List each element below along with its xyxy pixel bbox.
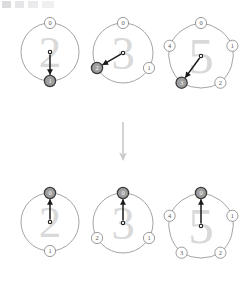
graph-node[interactable]: 2 (91, 62, 102, 73)
node-label: 0 (121, 189, 124, 196)
graph-node[interactable]: 1 (227, 40, 238, 51)
graph-node[interactable]: 3 (176, 77, 187, 88)
graph-node[interactable]: 0 (44, 187, 55, 198)
pointer-hub (199, 224, 202, 227)
diagram-canvas: 20130125012342013012501234 (0, 0, 247, 305)
graph-node[interactable]: 1 (44, 75, 55, 86)
cycle-diagram: 201 (14, 16, 86, 88)
pointer-hub (48, 50, 51, 53)
node-label: 1 (48, 247, 51, 254)
node-label: 2 (95, 64, 98, 71)
graph-node[interactable]: 0 (195, 17, 206, 28)
graph-node[interactable]: 0 (195, 187, 206, 198)
node-label: 0 (199, 189, 202, 196)
node-label: 1 (231, 212, 234, 219)
node-label: 2 (95, 234, 98, 241)
node-label: 0 (199, 19, 202, 26)
node-label: 3 (180, 79, 183, 86)
cycle-diagram: 201 (14, 186, 86, 258)
node-label: 0 (48, 189, 51, 196)
graph-node[interactable]: 1 (143, 62, 154, 73)
scan-artifact (2, 1, 54, 8)
pointer-hub (199, 54, 202, 57)
pointer-hub (48, 220, 51, 223)
node-label: 3 (180, 249, 183, 256)
cycle-diagram: 501234 (161, 186, 241, 266)
graph-node[interactable]: 2 (215, 247, 226, 258)
graph-node[interactable]: 3 (176, 247, 187, 258)
node-label: 2 (219, 249, 222, 256)
cycle-diagram: 3012 (86, 186, 160, 260)
node-label: 1 (147, 234, 150, 241)
graph-node[interactable]: 0 (117, 187, 128, 198)
graph-node[interactable]: 1 (44, 245, 55, 256)
pointer-hub (121, 51, 124, 54)
cycle-diagram: 501234 (161, 16, 241, 96)
node-label: 1 (48, 77, 51, 84)
node-label: 1 (147, 64, 150, 71)
graph-node[interactable]: 1 (143, 232, 154, 243)
graph-node[interactable]: 4 (164, 40, 175, 51)
graph-node[interactable]: 2 (91, 232, 102, 243)
node-label: 1 (231, 42, 234, 49)
node-label: 2 (219, 79, 222, 86)
graph-node[interactable]: 2 (215, 77, 226, 88)
node-label: 0 (121, 19, 124, 26)
pointer-hub (121, 221, 124, 224)
transition-down-arrow (111, 122, 135, 166)
graph-node[interactable]: 0 (44, 17, 55, 28)
graph-node[interactable]: 0 (117, 17, 128, 28)
node-label: 0 (48, 19, 51, 26)
graph-node[interactable]: 1 (227, 210, 238, 221)
cycle-diagram: 3012 (86, 16, 160, 90)
graph-node[interactable]: 4 (164, 210, 175, 221)
